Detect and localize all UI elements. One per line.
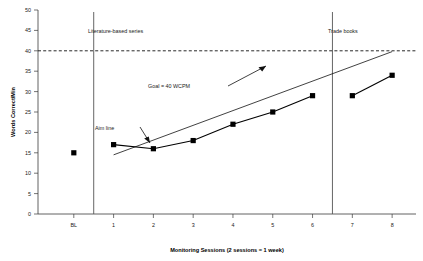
x-tick-label: 5 [271, 222, 274, 228]
y-tick-label: 5 [28, 191, 31, 197]
x-tick-label: BL [71, 222, 78, 228]
goal-annotation-label: Goal = 40 WCPM [148, 83, 191, 89]
data-point-marker [230, 122, 235, 127]
y-axis-title: Words Correct/Min [10, 86, 16, 137]
data-point-marker [71, 150, 76, 155]
chart-background [0, 0, 423, 261]
y-tick-label: 35 [25, 68, 31, 74]
chart-container: 05101520253035404550 BL12345678 Words Co… [0, 0, 423, 261]
aim-line-annotation-label: Aim line [95, 125, 114, 131]
x-tick-label: 7 [351, 222, 354, 228]
y-tick-label: 50 [25, 7, 31, 13]
y-tick-label: 0 [28, 211, 31, 217]
y-tick-label: 10 [25, 170, 31, 176]
x-axis-title: Monitoring Sessions (2 sessions = 1 week… [170, 247, 284, 253]
phase-label-trade-books: Trade books [328, 28, 358, 34]
data-point-marker [270, 109, 275, 114]
data-point-marker [350, 93, 355, 98]
y-tick-label: 45 [25, 27, 31, 33]
data-series-1 [71, 150, 76, 155]
x-tick-label: 1 [112, 222, 115, 228]
data-point-marker [390, 73, 395, 78]
data-point-marker [151, 146, 156, 151]
y-tick-label: 15 [25, 150, 31, 156]
x-tick-label: 8 [391, 222, 394, 228]
y-tick-label: 25 [25, 109, 31, 115]
y-tick-label: 20 [25, 129, 31, 135]
x-tick-label: 3 [192, 222, 195, 228]
data-point-marker [310, 93, 315, 98]
x-tick-label: 2 [152, 222, 155, 228]
data-point-marker [191, 138, 196, 143]
x-tick-label: 6 [311, 222, 314, 228]
y-tick-label: 40 [25, 48, 31, 54]
y-tick-label: 30 [25, 89, 31, 95]
x-tick-label: 4 [231, 222, 234, 228]
progress-monitoring-chart: 05101520253035404550 BL12345678 Words Co… [0, 0, 423, 261]
data-point-marker [111, 142, 116, 147]
phase-label-literature-based-series: Literature-based series [88, 28, 143, 34]
